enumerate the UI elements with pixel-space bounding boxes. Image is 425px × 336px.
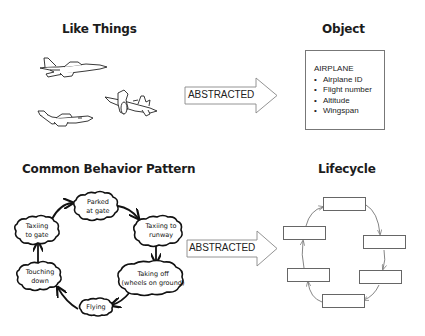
lifecycle-arrow xyxy=(308,282,322,302)
lifecycle-diagram xyxy=(0,0,425,336)
lifecycle-box xyxy=(363,235,406,249)
lifecycle-arrow xyxy=(302,241,304,268)
lifecycle-box xyxy=(323,197,366,211)
lifecycle-arrow xyxy=(364,285,379,300)
lifecycle-arrow xyxy=(366,205,380,234)
lifecycle-box xyxy=(287,268,330,282)
lifecycle-box xyxy=(322,294,365,308)
lifecycle-arrow xyxy=(306,207,323,226)
lifecycle-arrow xyxy=(383,250,385,269)
lifecycle-box xyxy=(283,226,326,240)
lifecycle-box xyxy=(359,270,402,284)
